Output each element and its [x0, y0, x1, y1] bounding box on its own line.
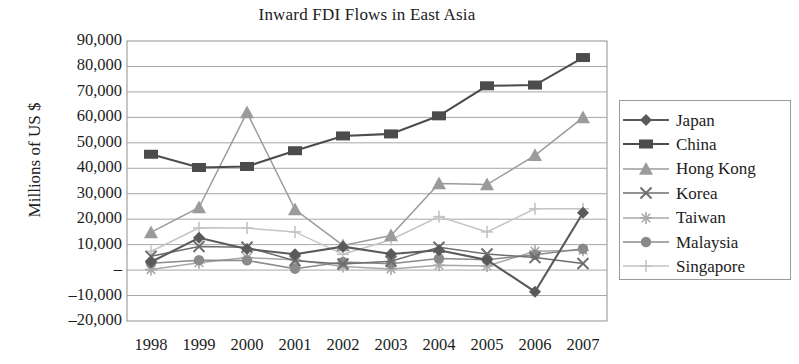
legend-label: Hong Kong	[672, 160, 756, 177]
data-point-square	[336, 131, 350, 140]
legend-item-china[interactable]: China	[620, 132, 792, 156]
data-point-square	[192, 163, 206, 172]
legend-label: Taiwan	[672, 209, 726, 226]
data-point-square	[144, 150, 158, 159]
data-point-plus	[640, 260, 652, 272]
legend-marker-circle-icon	[620, 231, 672, 253]
data-point-square	[528, 81, 542, 90]
data-point-square	[480, 81, 494, 90]
fdi-line-chart: Inward FDI Flows in East Asia Millions o…	[0, 0, 799, 364]
legend-item-japan[interactable]: Japan	[620, 108, 792, 132]
legend-label: Malaysia	[672, 234, 738, 251]
legend-item-hong-kong[interactable]: Hong Kong	[620, 157, 792, 181]
data-point-circle	[194, 255, 204, 265]
data-point-square	[240, 162, 254, 171]
legend-label: China	[672, 136, 717, 153]
chart-legend: JapanChinaHong KongKoreaTaiwanMalaysiaSi…	[619, 100, 791, 280]
legend-marker-cross-icon	[620, 182, 672, 204]
legend-marker-triangle-icon	[620, 158, 672, 180]
data-point-star	[640, 212, 652, 224]
data-point-square	[639, 140, 653, 149]
legend-item-malaysia[interactable]: Malaysia	[620, 230, 792, 254]
data-point-square	[288, 146, 302, 155]
data-point-circle	[338, 257, 348, 267]
data-point-diamond	[640, 114, 652, 126]
legend-label: Japan	[672, 112, 715, 129]
legend-marker-diamond-icon	[620, 109, 672, 131]
legend-item-taiwan[interactable]: Taiwan	[620, 206, 792, 230]
data-point-square	[432, 111, 446, 120]
data-point-circle	[578, 244, 588, 254]
legend-item-singapore[interactable]: Singapore	[620, 254, 792, 278]
legend-label: Korea	[672, 185, 718, 202]
legend-label: Singapore	[672, 258, 745, 275]
legend-marker-plus-icon	[620, 255, 672, 277]
legend-marker-star-icon	[620, 207, 672, 229]
legend-marker-square-icon	[620, 133, 672, 155]
data-point-circle	[242, 255, 252, 265]
data-point-square	[576, 53, 590, 62]
data-point-square	[384, 129, 398, 138]
data-point-circle	[641, 237, 651, 247]
legend-item-korea[interactable]: Korea	[620, 181, 792, 205]
